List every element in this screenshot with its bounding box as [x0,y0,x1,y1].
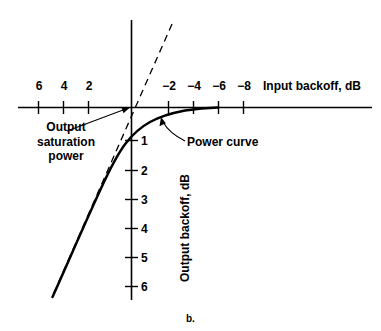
annotation-saturation-line-1: Output [22,120,110,135]
x-tick-label-neg2: −2 [158,79,180,93]
y-tick-label-6: 6 [141,280,148,294]
y-tick-label-1: 1 [141,134,148,148]
y-tick-label-5: 5 [141,251,148,265]
figure-caption: b. [186,313,195,325]
x-tick-label-4: 4 [56,79,72,93]
y-tick-label-3: 3 [141,193,148,207]
x-tick-label-neg6: −6 [208,79,230,93]
x-tick-label-neg4: −4 [183,79,205,93]
y-tick-label-2: 2 [141,164,148,178]
annotation-power-curve: Power curve [187,135,258,149]
x-tick-label-2: 2 [81,79,97,93]
y-axis-title: Output backoff, dB [178,174,192,282]
annotation-saturation-line-3: power [22,149,110,164]
saturation-leader-arrowhead [122,107,131,113]
y-tick-label-4: 4 [141,222,148,236]
x-tick-label-6: 6 [31,79,47,93]
annotation-output-saturation-power: Output saturation power [22,120,110,164]
figure-panel-b: 6 4 2 −2 −4 −6 −8 1 2 3 4 5 6 Input back… [0,0,381,331]
x-tick-label-neg8: −8 [233,79,255,93]
x-axis-title: Input backoff, dB [263,79,361,93]
annotation-saturation-line-2: saturation [22,135,110,150]
power-curve-leader-line [163,122,185,141]
